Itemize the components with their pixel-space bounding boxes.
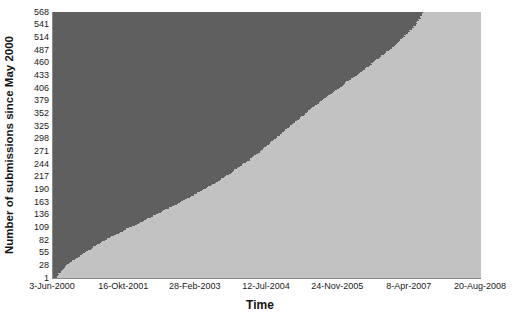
- y-axis-tick-label: 514: [34, 33, 49, 42]
- y-axis-tick-label: 55: [39, 248, 49, 257]
- x-axis-tick-labels: 3-Jun-200016-Okt-200128-Feb-200312-Jul-2…: [0, 281, 520, 297]
- x-axis-tick-label: 24-Nov-2005: [311, 281, 363, 292]
- x-axis-title: Time: [0, 298, 520, 312]
- y-axis-tick-label: 217: [34, 172, 49, 181]
- y-axis-tick-label: 568: [34, 8, 49, 17]
- y-axis-title-label: Number of submissions since May 2000: [3, 36, 15, 254]
- y-axis-tick-labels: 5685415144874604334063793523252982712442…: [18, 0, 51, 290]
- x-axis-tick-label: 3-Jun-2000: [29, 281, 75, 292]
- y-axis-tick-label: 460: [34, 58, 49, 67]
- x-axis-tick-label: 12-Jul-2004: [242, 281, 290, 292]
- y-axis-tick-label: 28: [39, 261, 49, 270]
- y-axis-tick-label: 244: [34, 160, 49, 169]
- y-axis-tick-label: 352: [34, 109, 49, 118]
- x-axis-tick-label: 16-Okt-2001: [98, 281, 148, 292]
- y-axis-tick-label: 271: [34, 147, 49, 156]
- y-axis-tick-label: 433: [34, 71, 49, 80]
- chart-container: Number of submissions since May 2000 568…: [0, 0, 520, 326]
- x-axis-tick-label: 28-Feb-2003: [169, 281, 221, 292]
- y-axis-tick-label: 406: [34, 84, 49, 93]
- bars-layer: [53, 12, 481, 278]
- y-axis-tick-label: 325: [34, 122, 49, 131]
- y-axis-tick-label: 379: [34, 96, 49, 105]
- y-axis-title: Number of submissions since May 2000: [0, 0, 18, 290]
- y-axis-tick-label: 487: [34, 46, 49, 55]
- y-axis-tick-label: 136: [34, 210, 49, 219]
- y-axis-tick-label: 163: [34, 198, 49, 207]
- x-axis-tick-label: 8-Apr-2007: [386, 281, 431, 292]
- y-axis-tick-label: 190: [34, 185, 49, 194]
- y-axis-tick-label: 541: [34, 20, 49, 29]
- y-axis-tick-label: 109: [34, 223, 49, 232]
- x-axis-tick-label: 20-Aug-2008: [454, 281, 506, 292]
- y-axis-tick-label: 298: [34, 134, 49, 143]
- y-axis-tick-label: 82: [39, 236, 49, 245]
- bar: [53, 12, 423, 13]
- plot-area: [52, 12, 481, 279]
